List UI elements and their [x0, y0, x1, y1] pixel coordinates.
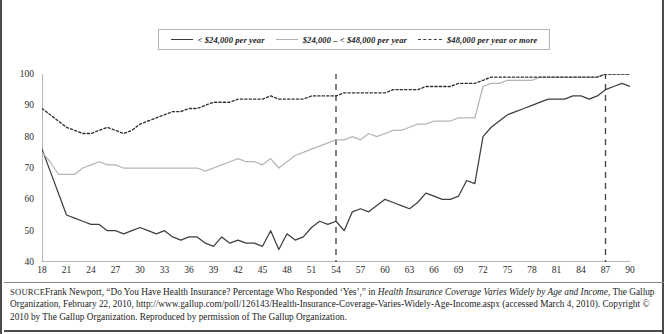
x-tick-label-45: 45 — [253, 265, 273, 275]
x-tick-label-75: 75 — [498, 265, 518, 275]
x-tick-label-33: 33 — [155, 265, 175, 275]
chart-legend: < $24,000 per year $24,000 – < $48,000 p… — [158, 29, 550, 50]
y-tick-label-80: 80 — [8, 132, 34, 142]
x-tick-label-60: 60 — [375, 265, 395, 275]
y-tick-label-40: 40 — [8, 257, 34, 267]
x-tick-label-81: 81 — [547, 265, 567, 275]
x-tick-label-36: 36 — [179, 265, 199, 275]
x-tick-label-39: 39 — [204, 265, 224, 275]
source-note: SOURCEFrank Newport, “Do You Have Health… — [10, 286, 658, 323]
x-tick-label-57: 57 — [351, 265, 371, 275]
x-tick-label-24: 24 — [81, 265, 101, 275]
source-text-a: Frank Newport, “Do You Have Health Insur… — [45, 287, 378, 297]
source-prefix: SOURCE — [10, 287, 45, 297]
figure-frame: < $24,000 per year $24,000 – < $48,000 p… — [0, 0, 664, 334]
legend-item-high-income: $48,000 per year or more — [418, 35, 537, 45]
bottom-divider — [4, 330, 664, 332]
chart-plot-area — [42, 74, 630, 262]
x-tick-label-42: 42 — [228, 265, 248, 275]
y-tick-label-90: 90 — [8, 100, 34, 110]
x-tick-label-48: 48 — [277, 265, 297, 275]
x-tick-label-72: 72 — [473, 265, 493, 275]
chart-reference-lines — [336, 74, 606, 262]
x-tick-label-84: 84 — [571, 265, 591, 275]
source-divider — [4, 282, 664, 283]
x-tick-label-54: 54 — [326, 265, 346, 275]
x-tick-label-18: 18 — [32, 265, 52, 275]
x-tick-label-27: 27 — [106, 265, 126, 275]
legend-label-low-income: < $24,000 per year — [198, 35, 265, 45]
x-tick-label-21: 21 — [57, 265, 77, 275]
y-tick-label-50: 50 — [8, 226, 34, 236]
legend-swatch-solid-light-icon — [276, 39, 298, 40]
x-tick-label-87: 87 — [596, 265, 616, 275]
x-tick-label-30: 30 — [130, 265, 150, 275]
legend-swatch-dotted-icon — [418, 39, 442, 40]
legend-swatch-solid-dark-icon — [171, 39, 193, 40]
x-tick-label-78: 78 — [522, 265, 542, 275]
x-tick-label-69: 69 — [449, 265, 469, 275]
y-tick-label-100: 100 — [8, 69, 34, 79]
y-tick-label-60: 60 — [8, 194, 34, 204]
legend-item-mid-income: $24,000 – < $48,000 per year — [276, 35, 407, 45]
x-tick-label-90: 90 — [620, 265, 640, 275]
y-tick-label-70: 70 — [8, 163, 34, 173]
legend-item-low-income: < $24,000 per year — [171, 35, 265, 45]
legend-label-mid-income: $24,000 – < $48,000 per year — [303, 35, 407, 45]
chart-canvas — [42, 74, 630, 262]
x-tick-label-63: 63 — [400, 265, 420, 275]
legend-label-high-income: $48,000 per year or more — [447, 35, 537, 45]
x-tick-label-51: 51 — [302, 265, 322, 275]
series-line-2 — [42, 74, 630, 134]
x-tick-label-66: 66 — [424, 265, 444, 275]
source-title-italic: Health Insurance Coverage Varies Widely … — [378, 287, 608, 297]
